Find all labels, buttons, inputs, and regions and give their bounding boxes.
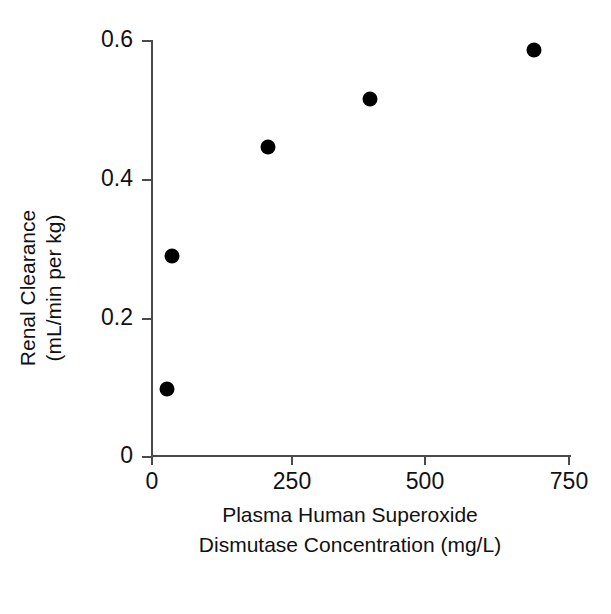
data-point	[165, 249, 180, 264]
y-axis-tick-label-0: 0	[120, 444, 133, 467]
y-axis-title: Renal Clearance (mL/min per kg)	[15, 178, 67, 398]
x-axis-title: Plasma Human Superoxide Dismutase Concen…	[120, 500, 580, 560]
y-axis-tick-label-0.2: 0.2	[101, 306, 133, 329]
data-point	[159, 381, 174, 396]
y-axis-tick-label-0.4: 0.4	[101, 167, 133, 190]
x-axis-tick-label-250: 250	[273, 470, 311, 493]
plot-area: 0.6 0.4 0.2 0 0 250 500 750 Renal Cleara…	[0, 0, 611, 614]
x-axis-title-line-2: Dismutase Concentration (mg/L)	[120, 530, 580, 560]
y-axis-title-line-2: (mL/min per kg)	[41, 178, 67, 398]
y-axis-tick-0.4	[142, 179, 152, 181]
x-axis-tick-500	[424, 455, 426, 465]
x-axis-title-line-1: Plasma Human Superoxide	[120, 500, 580, 530]
x-axis-line	[151, 455, 571, 457]
y-axis-tick-0.2	[142, 318, 152, 320]
y-axis-tick-0.6	[142, 40, 152, 42]
x-axis-tick-0	[151, 455, 153, 465]
y-axis-tick-label-0.6: 0.6	[101, 28, 133, 51]
x-axis-tick-750	[568, 455, 570, 465]
x-axis-tick-250	[291, 455, 293, 465]
data-point	[260, 139, 275, 154]
scatter-plot-figure: 0.6 0.4 0.2 0 0 250 500 750 Renal Cleara…	[0, 0, 611, 614]
x-axis-tick-label-0: 0	[146, 470, 159, 493]
x-axis-tick-label-500: 500	[406, 470, 444, 493]
y-axis-title-line-1: Renal Clearance	[15, 178, 41, 398]
x-axis-tick-label-750: 750	[550, 470, 588, 493]
data-point	[526, 42, 541, 57]
y-axis-line	[151, 40, 153, 458]
data-point	[363, 91, 378, 106]
